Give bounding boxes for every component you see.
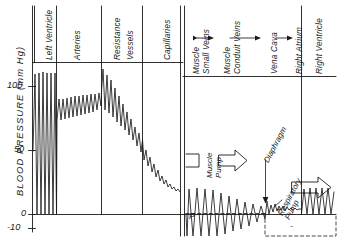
segment-label-resistance: Resistance (113, 17, 122, 60)
muscle-pump-label-line1: Muscle (205, 153, 214, 178)
muscle-pump-arrow (219, 150, 247, 171)
segment-label-muscle: Muscle (192, 47, 201, 74)
segment-label-left-ventricle: Left Ventricle (45, 10, 54, 60)
ytick-label-0: 0 (21, 208, 26, 218)
ytick-label-100: 100 (7, 80, 22, 90)
plus-sign-label: + (276, 205, 281, 215)
muscle-pump-bracket (186, 154, 199, 167)
ytick-label-neg10: -10 (7, 222, 20, 232)
right-ventricle-waveform (302, 188, 335, 214)
segment-label-small-veins: Small Veins (202, 29, 211, 74)
blood-pressure-figure: BLOOD PRESSURE (mm Hg) 100 50 0 -10 Left… (0, 0, 337, 246)
segment-label-vena-cava: Vena Cava (270, 32, 279, 74)
negative-pressure-dashed-box (265, 214, 336, 237)
muscle-pump-label-line2: Pump (214, 157, 223, 178)
minus-sign-label: - (290, 221, 293, 231)
flow-arrow-3-head (287, 35, 293, 40)
segment-label-right-ventricle: Right Ventricle (315, 18, 324, 74)
segment-label-conduit-veins: Conduit Veins (233, 21, 242, 74)
segment-label-arteries: Arteries (73, 30, 82, 60)
segment-label-right-atrium: Right Atrium (295, 27, 304, 74)
pressure-waveform (33, 69, 180, 214)
flow-arrow-1-tail (193, 36, 197, 41)
flow-arrow-2-head (255, 35, 261, 40)
y-axis-title: BLOOD PRESSURE (mm Hg) (14, 46, 25, 196)
segment-label-muscle-2: Muscle (223, 47, 232, 74)
segment-label-vessels: Vessels (126, 30, 135, 60)
ytick-label-50: 50 (14, 144, 24, 154)
segment-label-capillaries: Capillaries (163, 20, 172, 60)
p-marker-label: P (189, 211, 195, 221)
